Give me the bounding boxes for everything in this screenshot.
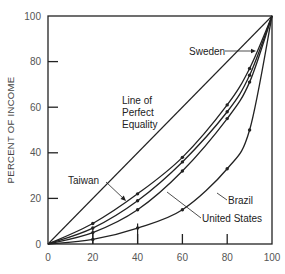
sweden-arrowhead [251,49,256,53]
taiwan-point [248,67,251,70]
taiwan-label: Taiwan [68,175,99,186]
x-tick-label: 20 [87,252,99,263]
axis-ticks: 020406080100020406080100 [24,11,280,264]
united-states-label: United States [202,213,262,224]
equality-line [48,16,272,244]
y-tick-label: 80 [30,56,42,67]
taiwan-point [91,222,94,225]
sweden-point [181,160,184,163]
brazil-point [226,167,229,170]
x-tick-label: 80 [222,252,234,263]
brazil-leader [217,193,227,200]
equality-label-line1: Line of [122,95,152,106]
taiwan-point [136,192,139,195]
sweden-point [136,199,139,202]
sweden-label: Sweden [189,46,225,57]
united-states-point [248,80,251,83]
sweden-point [248,74,251,77]
series-lines [48,16,272,244]
united-states-point [181,169,184,172]
equality-label-line2: Perfect [122,107,154,118]
equality-label-line3: Equality [122,119,158,130]
y-tick-label: 20 [30,193,42,204]
y-tick-label: 100 [24,11,41,22]
y-axis-label: PERCENT OF INCOME [5,77,16,184]
taiwan-point [181,156,184,159]
brazil-point [248,128,251,131]
united-states-point [226,117,229,120]
sweden-point [226,110,229,113]
y-tick-label: 40 [30,147,42,158]
y-tick-label: 60 [30,102,42,113]
taiwan-point [226,103,229,106]
united-states-leader [167,192,201,218]
x-tick-label: 60 [177,252,189,263]
x-tick-label: 40 [132,252,144,263]
taiwan-leader [106,182,124,199]
brazil-label: Brazil [228,195,253,206]
x-tick-label: 100 [264,252,281,263]
y-tick-label: 0 [35,239,41,250]
united-states-point [136,208,139,211]
x-tick-label: 0 [45,252,51,263]
brazil-point [181,208,184,211]
lorenz-curve-chart: 020406080100020406080100 PERCENT OF INCO… [0,0,285,274]
